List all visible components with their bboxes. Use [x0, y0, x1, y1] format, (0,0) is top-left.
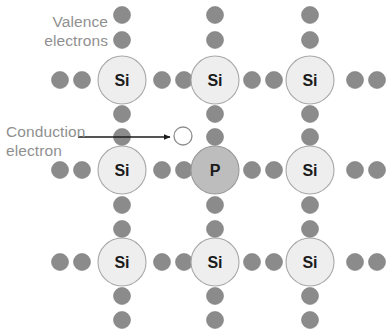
valence-electron-dot	[302, 32, 319, 49]
valence-electron-dot	[302, 312, 319, 329]
valence-electron-dot	[114, 288, 131, 305]
valence-electron-dot	[244, 72, 261, 89]
valence-electron-dot	[74, 162, 91, 179]
valence-electron-dot	[207, 221, 224, 238]
valence-electron-dot	[369, 254, 386, 271]
valence-electron-dot	[266, 162, 283, 179]
valence-electron-dot	[114, 7, 131, 24]
atom-silicon-r0c1: Si	[191, 56, 239, 104]
conduction-label-line1: Conduction	[6, 122, 101, 141]
valence-electron-dot	[302, 288, 319, 305]
valence-electron-dot	[347, 162, 364, 179]
atom-symbol-label: Si	[207, 254, 222, 271]
valence-electron-dot	[207, 129, 224, 146]
valence-electron-dot	[207, 197, 224, 214]
atom-silicon-r2c1: Si	[191, 238, 239, 286]
valence-electron-dot	[114, 106, 131, 123]
atom-silicon-r0c0: Si	[98, 56, 146, 104]
atom-symbol-label: Si	[114, 162, 129, 179]
valence-electron-dot	[52, 254, 69, 271]
valence-electron-dot	[52, 72, 69, 89]
valence-electron-dot	[74, 254, 91, 271]
atoms-group: SiSiSiSiPSiSiSiSi	[98, 56, 334, 286]
valence-electron-dot	[302, 7, 319, 24]
valence-electrons-label: Valence electrons	[10, 12, 108, 50]
valence-electron-dot	[302, 221, 319, 238]
valence-electron-dot	[154, 72, 171, 89]
valence-electron-dot	[52, 162, 69, 179]
valence-electron-dot	[244, 162, 261, 179]
atom-silicon-r2c0: Si	[98, 238, 146, 286]
valence-label-line1: Valence	[10, 12, 108, 31]
valence-electron-dot	[266, 254, 283, 271]
valence-electron-dot	[114, 197, 131, 214]
valence-electron-dot	[369, 162, 386, 179]
valence-electron-dot	[114, 312, 131, 329]
atom-symbol-label: P	[210, 162, 221, 179]
atom-symbol-label: Si	[207, 72, 222, 89]
conduction-label-line2: electron	[6, 141, 101, 160]
valence-electron-dot	[207, 106, 224, 123]
atom-symbol-label: Si	[114, 72, 129, 89]
valence-electron-dot	[302, 129, 319, 146]
valence-electron-dot	[302, 106, 319, 123]
valence-electron-dot	[369, 72, 386, 89]
valence-electron-dot	[176, 162, 193, 179]
atom-symbol-label: Si	[114, 254, 129, 271]
conduction-electron-circle	[174, 127, 192, 145]
atom-silicon-r1c0: Si	[98, 146, 146, 194]
atom-phosphorus-r1c1: P	[191, 146, 239, 194]
atom-symbol-label: Si	[302, 72, 317, 89]
valence-electron-dot	[207, 312, 224, 329]
valence-electron-dot	[207, 288, 224, 305]
valence-electron-dot	[266, 72, 283, 89]
conduction-electron-group	[174, 127, 192, 145]
valence-electron-dot	[74, 72, 91, 89]
valence-electron-dot	[114, 32, 131, 49]
atom-silicon-r1c2: Si	[286, 146, 334, 194]
atom-symbol-label: Si	[302, 162, 317, 179]
valence-electron-dot	[347, 254, 364, 271]
valence-electron-dot	[176, 72, 193, 89]
valence-electron-dot	[207, 7, 224, 24]
valence-electron-dot	[154, 254, 171, 271]
conduction-electron-label: Conduction electron	[6, 122, 101, 160]
atom-silicon-r0c2: Si	[286, 56, 334, 104]
valence-electron-dot	[114, 221, 131, 238]
valence-electron-dot	[176, 254, 193, 271]
valence-label-line2: electrons	[10, 31, 108, 50]
atom-silicon-r2c2: Si	[286, 238, 334, 286]
semiconductor-doping-diagram: SiSiSiSiPSiSiSiSi Valence electrons Cond…	[0, 0, 390, 333]
valence-electron-dot	[302, 197, 319, 214]
valence-electron-dot	[154, 162, 171, 179]
atom-symbol-label: Si	[302, 254, 317, 271]
valence-electron-dot	[347, 72, 364, 89]
valence-electron-dot	[207, 32, 224, 49]
valence-electron-dot	[244, 254, 261, 271]
